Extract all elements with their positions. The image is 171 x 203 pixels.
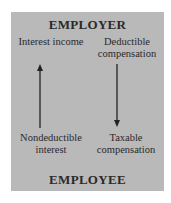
down-arrow-icon	[114, 64, 120, 127]
taxable-compensation-label: Taxable compensation	[89, 132, 163, 156]
nondeductible-interest-label: Nondeductible interest	[11, 132, 91, 156]
employee-title: EMPLOYEE	[11, 172, 164, 188]
diagram-panel: EMPLOYER Interest income Deductible comp…	[11, 12, 164, 191]
up-arrow-icon	[37, 64, 43, 128]
flow-arrows	[11, 12, 164, 191]
